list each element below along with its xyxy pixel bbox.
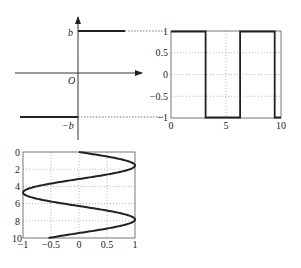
ytick-1: 1 (163, 26, 168, 37)
ytick-4: 4 (15, 181, 20, 192)
square-wave-plot: 1 0.5 0 −0.5 −1 0 5 10 (150, 26, 286, 131)
origin-label: O (68, 75, 75, 86)
axes-diagram: b O −b (15, 17, 166, 140)
ytick-6: 6 (15, 198, 20, 209)
ytick-0: 0 (15, 147, 20, 158)
upper-level-label: b (68, 27, 73, 38)
xtick-5: 5 (224, 120, 229, 131)
xtick-10: 10 (276, 120, 286, 131)
ytick-2: 2 (15, 164, 20, 175)
lower-level-label: −b (62, 120, 74, 131)
xtick-1: 1 (133, 239, 138, 250)
ytick-neg0.5: −0.5 (150, 91, 168, 102)
grid (23, 152, 135, 238)
ytick-0.5: 0.5 (156, 47, 169, 58)
ytick-0: 0 (163, 69, 168, 80)
figure-canvas: b O −b 1 0.5 0 −0.5 −1 0 5 10 (0, 0, 301, 268)
grid (171, 31, 281, 118)
ytick-8: 8 (15, 216, 20, 227)
xtick-0: 0 (169, 120, 174, 131)
xtick-0.5: 0.5 (101, 239, 114, 250)
ytick-neg1: −1 (157, 112, 168, 123)
xtick-neg1: −1 (18, 239, 29, 250)
xtick-0: 0 (77, 239, 82, 250)
xtick-neg0.5: −0.5 (42, 239, 60, 250)
sine-plot: 0 2 4 6 8 10 −1 −0.5 0 0.5 1 (12, 147, 138, 250)
